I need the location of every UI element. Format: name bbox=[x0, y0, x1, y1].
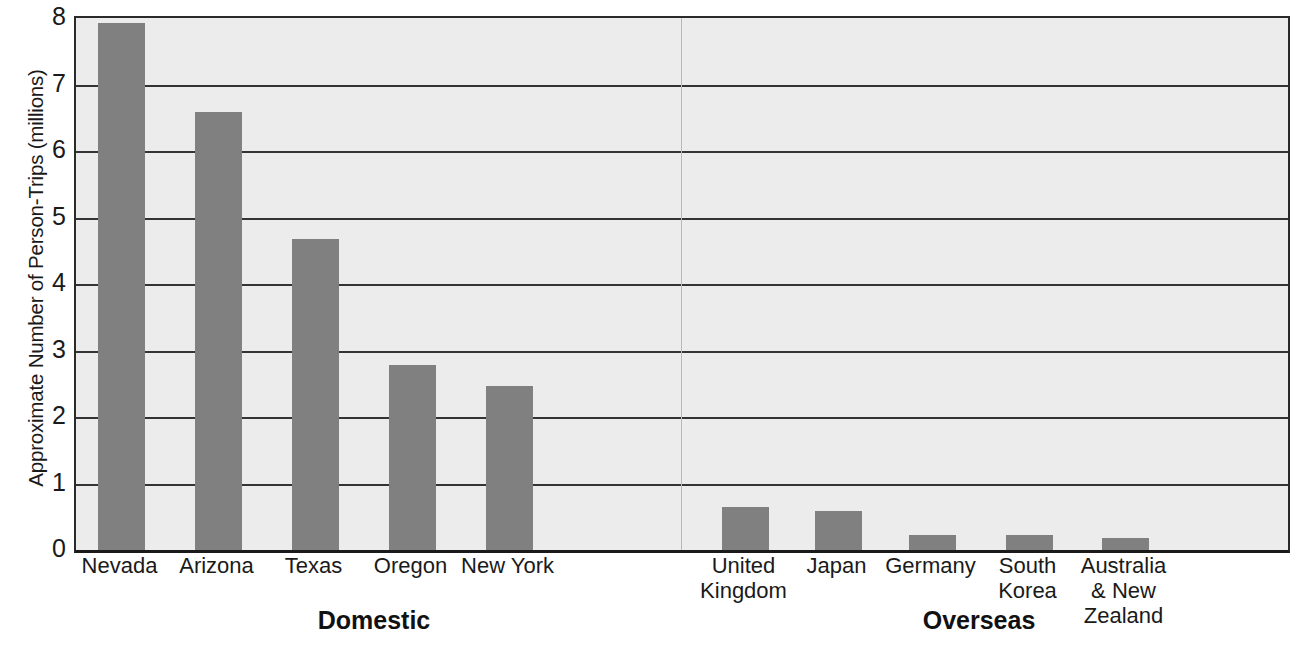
category-label-line: & New bbox=[1044, 578, 1204, 603]
category-label-line: Kingdom bbox=[664, 578, 824, 603]
y-axis-tick-label: 8 bbox=[26, 4, 66, 29]
bar bbox=[486, 386, 533, 550]
category-label-line: New York bbox=[428, 553, 588, 578]
group-label: Overseas bbox=[829, 606, 1129, 635]
y-axis-tick-label: 6 bbox=[26, 137, 66, 162]
y-axis-tick-label: 2 bbox=[26, 403, 66, 428]
bar bbox=[815, 511, 862, 550]
group-label: Domestic bbox=[224, 606, 524, 635]
y-axis-tick-label: 4 bbox=[26, 270, 66, 295]
bar bbox=[1006, 535, 1053, 550]
bar bbox=[195, 112, 242, 550]
x-axis-category-label: New York bbox=[428, 553, 588, 578]
bar bbox=[909, 535, 956, 550]
y-axis-tick-label: 1 bbox=[26, 469, 66, 494]
y-axis-tick-label: 5 bbox=[26, 203, 66, 228]
bar bbox=[292, 239, 339, 550]
bar bbox=[389, 365, 436, 550]
plot-area bbox=[74, 16, 1290, 553]
bar bbox=[1102, 538, 1149, 550]
bar bbox=[98, 23, 145, 550]
bar bbox=[722, 507, 769, 550]
bars-layer bbox=[76, 18, 1288, 550]
bar-chart: Approximate Number of Person-Trips (mill… bbox=[0, 0, 1296, 648]
y-axis-tick-label: 3 bbox=[26, 336, 66, 361]
group-labels: DomesticOverseas bbox=[74, 606, 1286, 646]
y-axis-tick-labels: 876543210 bbox=[26, 16, 66, 548]
y-axis-tick-label: 7 bbox=[26, 70, 66, 95]
category-label-line: Australia bbox=[1044, 553, 1204, 578]
